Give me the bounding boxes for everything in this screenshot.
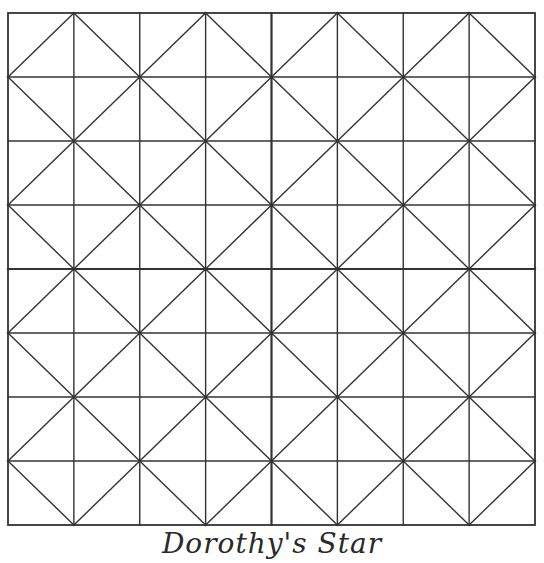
vertex-dot bbox=[204, 396, 207, 399]
diagonal-line bbox=[8, 141, 74, 205]
diagonal-line bbox=[469, 269, 535, 333]
diagonal-line bbox=[206, 461, 272, 525]
diagonal-line bbox=[403, 397, 469, 461]
vertex-dot bbox=[270, 332, 273, 335]
vertex-dot bbox=[402, 204, 405, 207]
diagonal-line bbox=[469, 141, 535, 205]
diagonal-line bbox=[469, 13, 535, 77]
diagonal-line bbox=[74, 333, 140, 397]
vertex-dot bbox=[468, 396, 471, 399]
vertex-dot bbox=[336, 268, 339, 271]
vertex-dot bbox=[468, 268, 471, 271]
vertex-dot bbox=[138, 76, 141, 79]
diagonal-line bbox=[337, 461, 403, 525]
vertex-dot bbox=[73, 268, 76, 271]
diagonal-line bbox=[403, 141, 469, 205]
vertex-dot bbox=[402, 76, 405, 79]
diagonal-line bbox=[8, 269, 74, 333]
vertex-dot bbox=[270, 204, 273, 207]
diagonal-line bbox=[8, 77, 74, 141]
diagonal-line bbox=[206, 333, 272, 397]
diagonal-line bbox=[8, 461, 74, 525]
diagonal-line bbox=[140, 13, 206, 77]
diagonal-line bbox=[140, 461, 206, 525]
diagonal-line bbox=[337, 205, 403, 269]
diagonal-line bbox=[8, 205, 74, 269]
diagonal-line bbox=[337, 397, 403, 461]
diagonal-line bbox=[74, 205, 140, 269]
diagonal-line bbox=[74, 269, 140, 333]
diagonal-line bbox=[272, 13, 338, 77]
grid-lines bbox=[8, 13, 535, 525]
vertex-dot bbox=[73, 140, 76, 143]
diagonal-line bbox=[469, 333, 535, 397]
diagonal-line bbox=[337, 13, 403, 77]
diagonal-line bbox=[469, 77, 535, 141]
diagonal-line bbox=[140, 141, 206, 205]
vertex-dot bbox=[468, 140, 471, 143]
diagonal-line bbox=[469, 461, 535, 525]
diagonal-line bbox=[140, 269, 206, 333]
diagonal-line bbox=[206, 205, 272, 269]
diagonal-line bbox=[140, 333, 206, 397]
diagonal-line bbox=[469, 205, 535, 269]
diagonal-line bbox=[403, 333, 469, 397]
diagonal-line bbox=[206, 269, 272, 333]
diagonal-line bbox=[272, 333, 338, 397]
diagonal-line bbox=[74, 141, 140, 205]
diagonal-line bbox=[206, 77, 272, 141]
diagonal-line bbox=[8, 13, 74, 77]
diagonal-line bbox=[403, 269, 469, 333]
diagonal-line bbox=[140, 77, 206, 141]
diagonal-line bbox=[272, 77, 338, 141]
diagonal-line bbox=[206, 397, 272, 461]
diagonal-line bbox=[8, 333, 74, 397]
vertex-dot bbox=[138, 332, 141, 335]
diagonal-line bbox=[272, 269, 338, 333]
vertex-dot bbox=[336, 140, 339, 143]
vertex-dot bbox=[402, 332, 405, 335]
diagonal-line bbox=[337, 141, 403, 205]
diagonal-line bbox=[74, 77, 140, 141]
diagonal-line bbox=[74, 461, 140, 525]
vertex-dot bbox=[204, 140, 207, 143]
vertex-dot bbox=[138, 460, 141, 463]
diagonal-line bbox=[403, 13, 469, 77]
vertex-dot bbox=[204, 268, 207, 271]
vertex-dot bbox=[336, 396, 339, 399]
diagonal-line bbox=[140, 397, 206, 461]
diagonal-line bbox=[8, 397, 74, 461]
diagram-caption: Dorothy's Star bbox=[0, 524, 544, 563]
diagonal-line bbox=[140, 205, 206, 269]
vertex-dot bbox=[270, 460, 273, 463]
diagonal-line bbox=[403, 77, 469, 141]
diagonal-line bbox=[74, 13, 140, 77]
diagonal-line bbox=[272, 461, 338, 525]
diagonal-line bbox=[337, 77, 403, 141]
diagonal-line bbox=[272, 205, 338, 269]
vertex-dot bbox=[138, 204, 141, 207]
diagonal-line bbox=[74, 397, 140, 461]
vertex-dot bbox=[270, 76, 273, 79]
diagonal-line bbox=[403, 461, 469, 525]
diagonal-line bbox=[206, 141, 272, 205]
vertex-dot bbox=[402, 460, 405, 463]
diagonal-line bbox=[337, 269, 403, 333]
vertex-dot bbox=[73, 396, 76, 399]
diagonal-line bbox=[403, 205, 469, 269]
diagonal-line bbox=[469, 397, 535, 461]
diagonal-line bbox=[206, 13, 272, 77]
diagonal-line bbox=[272, 397, 338, 461]
diagonal-line bbox=[272, 141, 338, 205]
diagonal-line bbox=[337, 333, 403, 397]
